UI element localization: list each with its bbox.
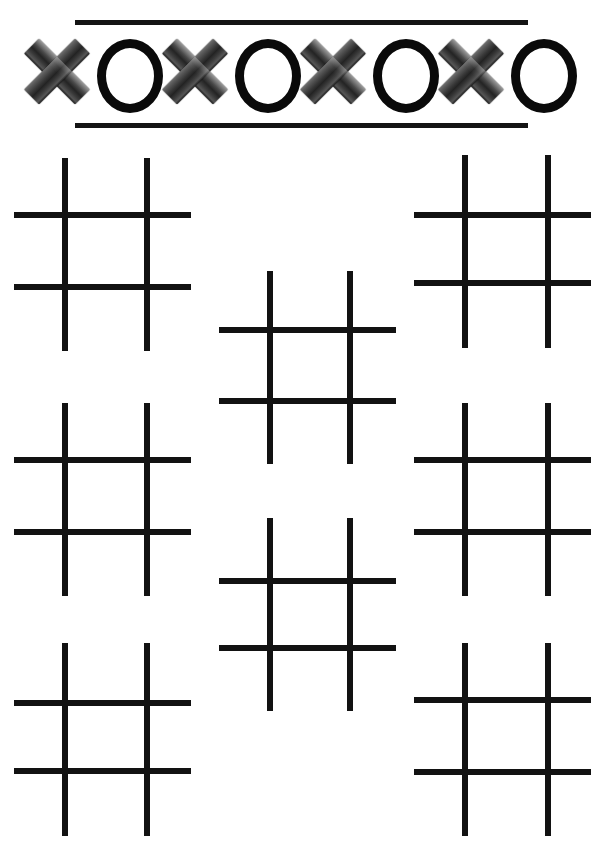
board-cell[interactable] [462,643,545,697]
board-cell[interactable] [14,457,62,529]
board-cell[interactable] [545,457,591,529]
board-cell[interactable] [414,155,462,212]
tic-tac-toe-board-4[interactable] [14,403,191,596]
board-cell[interactable] [14,158,62,212]
banner-rule-bottom [75,123,528,128]
board-cell[interactable] [144,158,191,212]
board-cell[interactable] [219,518,267,578]
board-cell[interactable] [462,403,545,457]
tic-tac-toe-board-1[interactable] [14,158,191,351]
o-mark-icon-1 [94,38,158,104]
board-cell[interactable] [545,155,591,212]
board-cell[interactable] [62,700,144,768]
board-cell[interactable] [545,643,591,697]
o-ring-stroke [511,39,577,113]
board-cell[interactable] [14,643,62,700]
board-cell[interactable] [14,212,62,284]
tic-tac-toe-board-3[interactable] [414,155,591,348]
board-cell[interactable] [62,768,144,836]
board-cell[interactable] [414,643,462,697]
board-cell[interactable] [414,769,462,836]
o-ring-stroke [235,39,301,113]
board-cell[interactable] [14,403,62,457]
board-cell[interactable] [347,271,396,327]
board-cell[interactable] [144,643,191,700]
board-cell[interactable] [14,768,62,836]
board-cell[interactable] [14,700,62,768]
tic-tac-toe-board-7[interactable] [14,643,191,836]
o-mark-icon-3 [370,38,434,104]
board-cell[interactable] [347,518,396,578]
board-cell[interactable] [414,697,462,769]
board-cell[interactable] [545,529,591,596]
board-cell[interactable] [347,645,396,711]
board-cell[interactable] [144,457,191,529]
o-mark-icon-2 [232,38,296,104]
board-cell[interactable] [219,578,267,645]
board-cell[interactable] [144,529,191,596]
board-cell[interactable] [14,529,62,596]
tic-tac-toe-board-8[interactable] [414,643,591,836]
board-cell[interactable] [462,155,545,212]
o-ring-stroke [97,39,163,113]
board-cell[interactable] [347,398,396,464]
board-cell[interactable] [545,212,591,280]
board-cell[interactable] [267,327,347,398]
board-cell[interactable] [267,271,347,327]
board-cell[interactable] [267,398,347,464]
board-cell[interactable] [414,403,462,457]
board-cell[interactable] [545,403,591,457]
board-cell[interactable] [545,769,591,836]
board-cell[interactable] [267,645,347,711]
board-cell[interactable] [62,643,144,700]
board-cell[interactable] [462,697,545,769]
board-cell[interactable] [545,697,591,769]
board-cell[interactable] [62,212,144,284]
board-cell[interactable] [62,403,144,457]
board-cell[interactable] [219,645,267,711]
board-cell[interactable] [219,271,267,327]
xo-banner [0,0,605,140]
board-cell[interactable] [462,529,545,596]
board-cell[interactable] [14,284,62,351]
board-cell[interactable] [144,403,191,457]
x-mark-icon-4 [440,39,502,103]
board-cell[interactable] [62,529,144,596]
board-cell[interactable] [219,398,267,464]
board-cell[interactable] [462,212,545,280]
x-mark-icon-1 [26,39,88,103]
tic-tac-toe-board-6[interactable] [414,403,591,596]
xo-symbol-row [26,36,579,106]
board-cell[interactable] [347,578,396,645]
o-ring-stroke [373,39,439,113]
board-cell[interactable] [462,280,545,348]
board-cell[interactable] [267,578,347,645]
board-cell[interactable] [267,518,347,578]
board-cell[interactable] [462,769,545,836]
board-cell[interactable] [462,457,545,529]
board-cell[interactable] [62,284,144,351]
banner-rule-top [75,20,528,25]
board-cell[interactable] [219,327,267,398]
board-cell[interactable] [144,700,191,768]
board-cell[interactable] [62,457,144,529]
board-cell[interactable] [347,327,396,398]
board-cell[interactable] [545,280,591,348]
x-mark-icon-3 [302,39,364,103]
board-cell[interactable] [414,457,462,529]
board-cell[interactable] [144,768,191,836]
tic-tac-toe-board-2[interactable] [219,271,396,464]
x-mark-icon-2 [164,39,226,103]
board-cell[interactable] [414,212,462,280]
board-cell[interactable] [414,280,462,348]
worksheet-page [0,0,605,848]
board-cell[interactable] [414,529,462,596]
board-cell[interactable] [62,158,144,212]
o-mark-icon-4 [508,38,572,104]
tic-tac-toe-board-5[interactable] [219,518,396,711]
board-cell[interactable] [144,284,191,351]
board-cell[interactable] [144,212,191,284]
